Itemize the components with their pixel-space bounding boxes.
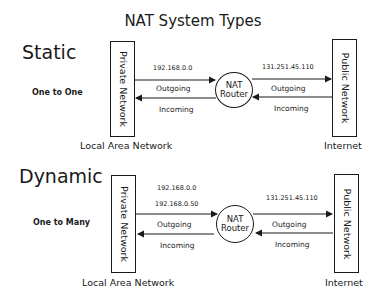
static-public-network-box: Public Network	[332, 39, 357, 137]
dynamic-heading: Dynamic	[19, 165, 103, 187]
static-lan-caption: Local Area Network	[80, 140, 172, 151]
static-heading: Static	[22, 41, 76, 63]
dynamic-private-network-box: Private Network	[111, 175, 136, 273]
dynamic-router-line2: Router	[221, 224, 249, 233]
dynamic-private-ip-start: 192.168.0.0	[157, 184, 196, 192]
static-mode-label: One to One	[32, 88, 83, 97]
dynamic-public-network-label: Public Network	[341, 188, 352, 259]
dynamic-nat-router: NAT Router	[216, 205, 254, 243]
static-left-outgoing-label: Outgoing	[156, 84, 191, 93]
dynamic-internet-caption: Internet	[325, 277, 363, 288]
dynamic-private-ip-end: 192.168.0.50	[155, 200, 198, 208]
dynamic-mode-label: One to Many	[33, 218, 90, 227]
static-internet-caption: Internet	[324, 140, 362, 151]
static-router-line2: Router	[220, 90, 248, 99]
static-private-network-box: Private Network	[110, 41, 135, 137]
static-public-ip: 131.251.45.110	[262, 63, 314, 71]
dynamic-lan-caption: Local Area Network	[82, 277, 174, 288]
dynamic-private-network-label: Private Network	[118, 186, 129, 262]
static-right-outgoing-label: Outgoing	[271, 84, 306, 93]
static-public-network-label: Public Network	[339, 53, 350, 124]
dynamic-left-outgoing-label: Outgoing	[157, 220, 192, 229]
static-left-incoming-label: Incoming	[159, 105, 194, 114]
dynamic-public-ip: 131.251.45.110	[266, 194, 318, 202]
dynamic-right-outgoing-label: Outgoing	[272, 220, 307, 229]
static-private-ip: 192.168.0.0	[153, 64, 192, 72]
dynamic-right-incoming-label: Incoming	[275, 240, 310, 249]
static-nat-router: NAT Router	[215, 72, 253, 108]
dynamic-public-network-box: Public Network	[334, 174, 359, 273]
static-private-network-label: Private Network	[117, 51, 128, 127]
dynamic-left-incoming-label: Incoming	[160, 241, 195, 250]
static-right-incoming-label: Incoming	[274, 104, 309, 113]
